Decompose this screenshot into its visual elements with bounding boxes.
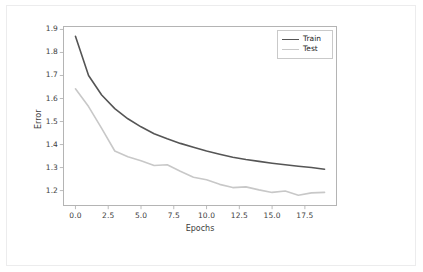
legend-label-train: Train	[303, 34, 321, 44]
y-tick-label: 1.6	[46, 94, 58, 103]
y-tick-label: 1.2	[46, 186, 58, 195]
chart-legend: Train Test	[277, 30, 333, 59]
y-tick-label: 1.8	[46, 47, 58, 56]
matplotlib-figure: Error Epochs 1.21.31.41.51.61.71.81.9 0.…	[0, 0, 423, 272]
legend-label-test: Test	[303, 44, 318, 54]
x-tick-label: 15.0	[257, 211, 287, 220]
y-tick-label: 1.4	[46, 140, 58, 149]
x-tick-label: 10.0	[192, 211, 222, 220]
legend-item-train: Train	[282, 34, 328, 44]
legend-swatch-test	[282, 49, 299, 50]
x-tick-label: 0.0	[60, 211, 90, 220]
y-tick-label: 1.7	[46, 70, 58, 79]
legend-item-test: Test	[282, 44, 328, 54]
y-tick-label: 1.3	[46, 163, 58, 172]
y-tick-label: 1.5	[46, 117, 58, 126]
x-tick-label: 12.5	[224, 211, 254, 220]
x-tick-label: 17.5	[290, 211, 320, 220]
legend-swatch-train	[282, 39, 299, 40]
y-axis-label: Error	[34, 110, 43, 130]
x-tick-label: 2.5	[93, 211, 123, 220]
y-tick-label: 1.9	[46, 24, 58, 33]
x-tick-label: 5.0	[126, 211, 156, 220]
x-tick-label: 7.5	[159, 211, 189, 220]
x-axis-label: Epochs	[160, 224, 240, 233]
chart-screenshot: Error Epochs 1.21.31.41.51.61.71.81.9 0.…	[0, 0, 423, 272]
